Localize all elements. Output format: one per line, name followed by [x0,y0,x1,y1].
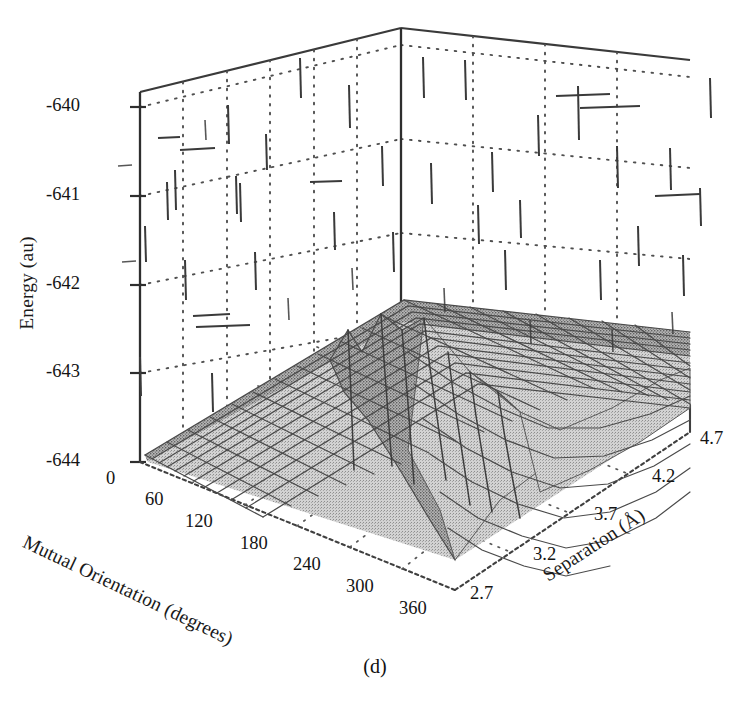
x-tick-label-120: 120 [185,511,213,532]
z-axis-left [130,92,146,462]
x-tick-label-300: 300 [346,576,374,597]
y-tick-label-27: 2.7 [470,583,493,604]
y-tick-label-32: 3.2 [533,544,556,565]
z-tick-label-3: -642 [46,273,80,294]
y-tick-label-37: 3.7 [594,504,617,525]
z-axis-ticks [130,107,146,462]
figure-panel-d: Energy (au) -640 -641 -642 -643 -644 Mut… [0,0,750,714]
z-tick-label-1: -640 [46,95,80,116]
surface-plot-3d [0,0,750,714]
z-axis-title: Energy (au) [16,218,38,348]
x-tick-label-360: 360 [399,598,427,619]
x-tick-label-180: 180 [240,533,268,554]
z-tick-label-5: -644 [46,450,80,471]
z-tick-label-2: -641 [46,184,80,205]
figure-caption: (d) [0,655,750,678]
y-tick-label-42: 4.2 [652,466,675,487]
x-tick-label-240: 240 [293,554,321,575]
y-tick-label-47: 4.7 [700,428,723,449]
z-tick-label-4: -643 [46,361,80,382]
x-tick-label-0: 0 [106,468,115,489]
x-tick-label-60: 60 [145,489,164,510]
